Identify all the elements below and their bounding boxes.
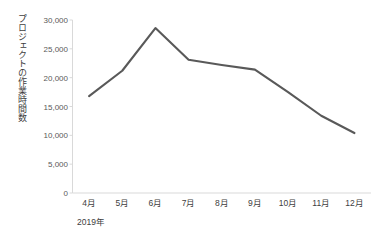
x-axis-tick-labels: 4月5月6月7月8月9月10月11月12月 [0,0,387,242]
x-tick-label: 12月 [334,196,374,208]
x-axis-title: 2019年 [77,215,105,227]
line-chart: プロジェクトの作業時間数 05,00010,00015,00020,00025,… [0,0,387,242]
